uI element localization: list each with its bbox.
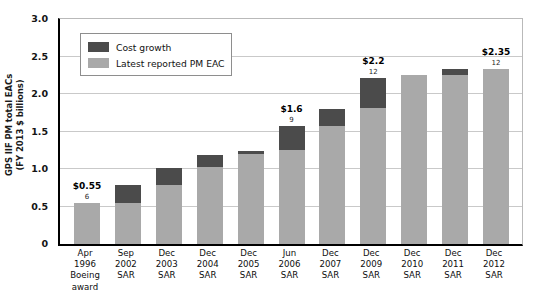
bar-segment-latest-reported-pm-eac[interactable]: [360, 108, 386, 244]
x-axis-tick-label: Dec 2007 SAR: [308, 248, 352, 282]
bar-segment-latest-reported-pm-eac[interactable]: [442, 75, 468, 245]
bar-group[interactable]: 12$2.35: [483, 19, 509, 244]
bar-segment-latest-reported-pm-eac[interactable]: [115, 203, 141, 244]
legend-label: Cost growth: [116, 42, 171, 53]
bar-group[interactable]: [401, 19, 427, 244]
bar-segment-latest-reported-pm-eac[interactable]: [319, 126, 345, 245]
y-axis-title-line1: GPS IIF PM total EACs: [4, 74, 14, 176]
bar-segment-latest-reported-pm-eac[interactable]: [279, 150, 305, 244]
bar-value-label: $2.35: [482, 47, 510, 57]
bar-group[interactable]: 12$2.2: [360, 19, 386, 244]
bar-value-label: $2.2: [362, 56, 384, 66]
bar-count-label: 9: [289, 116, 293, 124]
x-axis-tick-label: Apr 1996 Boeing award: [63, 248, 107, 293]
x-axis-tick-label: Dec 2009 SAR: [349, 248, 393, 282]
legend: Cost growthLatest reported PM EAC: [80, 33, 232, 76]
x-axis-tick-label: Dec 2003 SAR: [145, 248, 189, 282]
bar-value-label: $1.6: [280, 104, 302, 114]
legend-swatch: [88, 58, 109, 68]
bar-segment-cost-growth[interactable]: [319, 109, 345, 126]
bar-group[interactable]: [442, 19, 468, 244]
bar-value-label: $0.55: [73, 181, 101, 191]
x-axis-tick-label: Dec 2005 SAR: [227, 248, 271, 282]
bar-segment-latest-reported-pm-eac[interactable]: [197, 167, 223, 244]
bar-segment-cost-growth[interactable]: [197, 155, 223, 167]
bar-segment-latest-reported-pm-eac[interactable]: [483, 69, 509, 244]
bar-segment-latest-reported-pm-eac[interactable]: [156, 185, 182, 244]
bar-count-label: 12: [492, 59, 501, 67]
bar-segment-cost-growth[interactable]: [238, 151, 264, 154]
bar-segment-cost-growth[interactable]: [442, 69, 468, 74]
x-axis-tick-label: Jun 2006 SAR: [268, 248, 312, 282]
x-axis-tick-label: Dec 2004 SAR: [186, 248, 230, 282]
bar-segment-cost-growth[interactable]: [279, 126, 305, 150]
x-axis-tick-label: Sep 2002 SAR: [104, 248, 148, 282]
bar-count-label: 6: [85, 193, 89, 201]
bar-segment-latest-reported-pm-eac[interactable]: [401, 75, 427, 244]
legend-label: Latest reported PM EAC: [116, 58, 225, 69]
bar-segment-cost-growth[interactable]: [115, 185, 141, 203]
bar-segment-cost-growth[interactable]: [360, 78, 386, 109]
bar-group[interactable]: 9$1.6: [279, 19, 305, 244]
legend-item[interactable]: Cost growth: [88, 39, 231, 55]
bar-chart: GPS IIF PM total EACs (FY 2013 $ billion…: [0, 0, 533, 302]
bar-count-label: 12: [369, 68, 378, 76]
legend-item[interactable]: Latest reported PM EAC: [88, 55, 231, 71]
bar-group[interactable]: [238, 19, 264, 244]
x-axis-tick-label: Dec 2012 SAR: [472, 248, 516, 282]
legend-swatch: [88, 42, 109, 52]
bar-segment-latest-reported-pm-eac[interactable]: [238, 154, 264, 244]
bar-group[interactable]: [319, 19, 345, 244]
x-axis-tick-label: Dec 2010 SAR: [390, 248, 434, 282]
bar-segment-latest-reported-pm-eac[interactable]: [74, 203, 100, 244]
bar-segment-cost-growth[interactable]: [156, 168, 182, 185]
y-axis-title: GPS IIF PM total EACs (FY 2013 $ billion…: [0, 0, 30, 250]
y-axis-title-line2: (FY 2013 $ billions): [15, 80, 25, 171]
x-axis-tick-label: Dec 2011 SAR: [431, 248, 475, 282]
